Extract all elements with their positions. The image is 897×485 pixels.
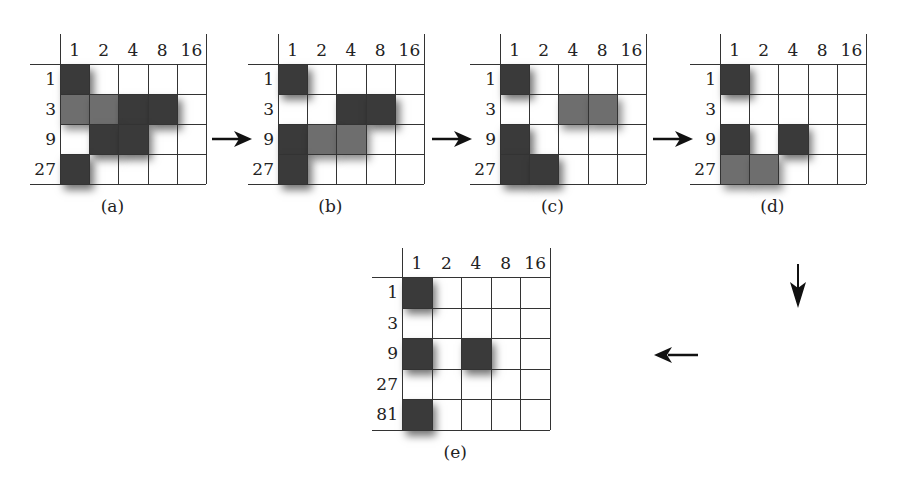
shaded-cell xyxy=(336,94,366,124)
grid-col-line xyxy=(550,248,551,430)
column-label: 2 xyxy=(307,42,336,59)
grid-row-line xyxy=(278,154,424,155)
column-label: 16 xyxy=(177,42,206,59)
grid-row-line xyxy=(402,369,550,370)
column-label: 1 xyxy=(500,42,529,59)
column-label: 2 xyxy=(89,42,118,59)
row-label: 27 xyxy=(466,161,496,178)
grid-bottom-line xyxy=(372,430,550,431)
grid-col-line xyxy=(177,64,178,184)
shaded-cell xyxy=(402,338,432,369)
panel-caption: (e) xyxy=(435,442,475,462)
row-label: 9 xyxy=(368,345,398,362)
shaded-cell xyxy=(558,94,588,124)
column-label: 4 xyxy=(558,42,587,59)
row-label: 1 xyxy=(686,71,716,88)
grid-bottom-line xyxy=(248,184,424,185)
grid-col-line xyxy=(432,277,433,430)
grid-col-line xyxy=(491,277,492,430)
grid-row-line xyxy=(500,124,646,125)
grid-col-line xyxy=(778,64,779,184)
grid-col-line xyxy=(148,64,149,184)
row-label: 1 xyxy=(244,71,274,88)
row-label: 1 xyxy=(368,284,398,301)
row-label: 3 xyxy=(244,101,274,118)
column-label: 8 xyxy=(588,42,617,59)
shaded-cell xyxy=(720,124,750,154)
column-label: 16 xyxy=(395,42,424,59)
row-label: 9 xyxy=(26,131,56,148)
grid-col-line xyxy=(395,64,396,184)
grid-col-line xyxy=(118,64,119,184)
panel-caption: (b) xyxy=(310,196,350,216)
row-label: 27 xyxy=(26,161,56,178)
shaded-cell xyxy=(89,94,119,124)
grid-row-line xyxy=(720,94,866,95)
arrow-right-icon xyxy=(653,131,695,147)
grid-row-line xyxy=(278,94,424,95)
grid-col-line xyxy=(866,34,867,184)
panel-caption: (a) xyxy=(92,196,132,216)
shaded-cell xyxy=(749,154,779,184)
grid-row-line xyxy=(500,94,646,95)
grid-col-line xyxy=(529,64,530,184)
column-label: 2 xyxy=(432,255,462,272)
grid-col-line xyxy=(588,64,589,184)
shaded-cell xyxy=(60,94,90,124)
column-label: 8 xyxy=(148,42,177,59)
grid-bottom-line xyxy=(30,184,206,185)
grid-col-line xyxy=(206,34,207,184)
shaded-cell xyxy=(720,154,750,184)
row-label: 81 xyxy=(368,406,398,423)
column-label: 16 xyxy=(837,42,866,59)
panel-caption: (c) xyxy=(532,196,572,216)
shaded-cell xyxy=(778,124,808,154)
grid-col-line xyxy=(366,64,367,184)
grid-col-line xyxy=(808,64,809,184)
shaded-cell xyxy=(402,277,432,308)
shaded-cell xyxy=(278,124,308,154)
arrow-down-icon xyxy=(790,264,806,310)
shaded-cell xyxy=(148,94,178,124)
column-label: 8 xyxy=(366,42,395,59)
row-label: 27 xyxy=(244,161,274,178)
grid-row-line xyxy=(60,154,206,155)
grid-col-line xyxy=(617,64,618,184)
shaded-cell xyxy=(366,94,396,124)
grid-col-line xyxy=(837,64,838,184)
grid-col-line xyxy=(424,34,425,184)
row-label: 3 xyxy=(368,315,398,332)
grid-row-line xyxy=(402,399,550,400)
grid-row-line xyxy=(60,124,206,125)
column-label: 2 xyxy=(529,42,558,59)
shaded-cell xyxy=(500,124,530,154)
grid-col-line xyxy=(646,34,647,184)
shaded-cell xyxy=(336,124,366,154)
shaded-cell xyxy=(89,124,119,154)
grid-row-line xyxy=(720,124,866,125)
column-label: 4 xyxy=(118,42,147,59)
column-label: 4 xyxy=(461,255,491,272)
grid-bottom-line xyxy=(470,184,646,185)
shaded-cell xyxy=(500,154,530,184)
shaded-cell xyxy=(118,124,148,154)
arrow-right-icon xyxy=(432,131,474,147)
grid-row-line xyxy=(402,338,550,339)
row-label: 27 xyxy=(368,376,398,393)
row-label: 27 xyxy=(686,161,716,178)
column-label: 4 xyxy=(778,42,807,59)
arrow-right-icon xyxy=(212,131,254,147)
grid-col-line xyxy=(558,64,559,184)
shaded-cell xyxy=(60,154,90,184)
column-label: 1 xyxy=(720,42,749,59)
shaded-cell xyxy=(307,124,337,154)
shaded-cell xyxy=(588,94,618,124)
column-label: 8 xyxy=(808,42,837,59)
shaded-cell xyxy=(720,64,750,94)
shaded-cell xyxy=(529,154,559,184)
column-label: 4 xyxy=(336,42,365,59)
row-label: 3 xyxy=(686,101,716,118)
column-label: 16 xyxy=(617,42,646,59)
grid-col-line xyxy=(336,64,337,184)
grid-bottom-line xyxy=(690,184,866,185)
